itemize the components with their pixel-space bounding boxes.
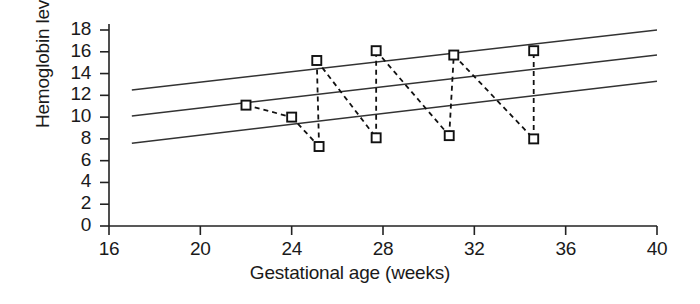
data-point-marker	[445, 131, 454, 140]
x-axis-label: Gestational age (weeks)	[0, 262, 700, 284]
y-tick-label-0: 0	[51, 214, 91, 236]
data-point-marker	[529, 46, 538, 55]
y-tick-label-10: 10	[51, 105, 91, 127]
x-tick-label-24: 24	[269, 238, 315, 260]
x-tick-label-32: 32	[451, 238, 497, 260]
data-point-marker	[529, 134, 538, 143]
data-point-marker	[312, 56, 321, 65]
data-point-marker	[449, 51, 458, 60]
data-point-marker	[372, 133, 381, 142]
connector-segment	[246, 105, 292, 117]
y-tick-label-18: 18	[51, 18, 91, 40]
middle-reference-line	[132, 55, 657, 116]
connector-segment	[317, 60, 319, 146]
x-tick-label-28: 28	[360, 238, 406, 260]
y-tick-label-12: 12	[51, 83, 91, 105]
y-tick-label-2: 2	[51, 192, 91, 214]
hemoglobin-gestational-age-chart: Hemoglobin level (g/dL) Gestational age …	[0, 0, 700, 304]
data-point-marker	[287, 113, 296, 122]
data-point-marker	[242, 101, 251, 110]
data-point-marker	[315, 142, 324, 151]
y-tick-label-14: 14	[51, 62, 91, 84]
connector-segment	[317, 60, 376, 137]
data-point-marker	[372, 46, 381, 55]
x-tick-label-40: 40	[634, 238, 680, 260]
y-tick-label-4: 4	[51, 170, 91, 192]
lower-reference-line	[132, 81, 657, 143]
y-tick-label-8: 8	[51, 127, 91, 149]
x-tick-label-16: 16	[86, 238, 132, 260]
connector-segment	[449, 55, 454, 136]
y-tick-label-6: 6	[51, 149, 91, 171]
y-tick-label-16: 16	[51, 40, 91, 62]
x-tick-label-36: 36	[543, 238, 589, 260]
connector-segment	[376, 51, 449, 136]
x-tick-label-20: 20	[177, 238, 223, 260]
upper-reference-line	[132, 30, 657, 90]
